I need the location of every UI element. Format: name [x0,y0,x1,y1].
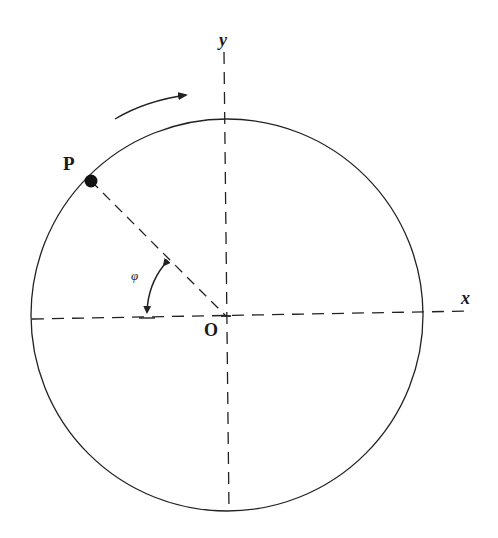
x-axis [32,311,472,319]
label-O: O [204,320,218,340]
label-phi: φ [131,268,138,283]
label-y: y [217,30,228,50]
label-x: x [460,288,470,308]
angle-arc-icon [147,265,164,312]
radius-OP [91,181,226,316]
rotation-arrow-icon [115,95,186,119]
label-P: P [63,153,75,174]
diagram-canvas: P O x y φ [0,0,498,538]
y-axis [224,52,229,512]
point-P [85,175,98,188]
